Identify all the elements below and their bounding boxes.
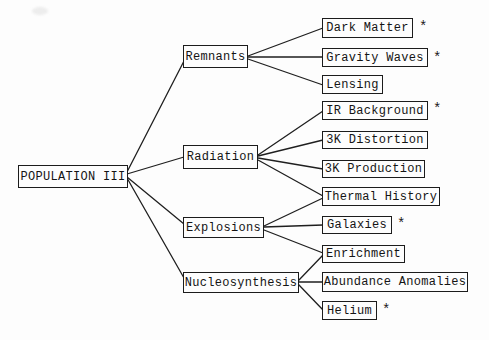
node-galaxies: Galaxies [322,216,392,234]
node-population-iii: POPULATION III [18,165,128,188]
population-iii-tree-diagram: POPULATION III Remnants Radiation Explos… [0,0,489,340]
edge-remnants-dark-matter [248,28,323,56]
node-abundance-anomalies: Abundance Anomalies [322,272,468,292]
node-explosions: Explosions [183,217,264,238]
node-gravity-waves: Gravity Waves [322,48,428,67]
node-remnants: Remnants [183,45,248,68]
edge-explosions-galaxies [264,225,323,227]
star-galaxies: * [397,216,405,232]
edge-root-nucleosynthesis [127,178,184,278]
edge-root-radiation [127,157,184,174]
star-ir-background: * [433,101,441,117]
edge-radiation-3k-production [258,158,323,169]
node-dark-matter: Dark Matter [322,18,413,38]
node-3k-production: 3K Production [322,160,425,178]
node-enrichment: Enrichment [322,245,405,263]
edge-radiation-thermal-history [258,160,323,196]
edge-remnants-lensing [248,59,323,85]
edge-root-remnants [127,61,184,172]
node-thermal-history: Thermal History [322,187,440,206]
star-dark-matter: * [419,19,427,35]
node-radiation: Radiation [183,145,258,169]
node-helium: Helium [322,301,377,320]
star-helium: * [382,302,390,318]
edge-root-explosions [127,177,184,224]
edge-nucleosynthesis-enrichment [299,255,323,280]
edge-explosions-enrichment [264,230,323,253]
node-lensing: Lensing [322,75,383,94]
edge-explosions-thermal-history [264,198,323,226]
star-gravity-waves: * [433,50,441,66]
node-ir-background: IR Background [322,101,428,120]
node-3k-distortion: 3K Distortion [322,131,428,149]
edge-nucleosynthesis-helium [299,285,323,310]
node-nucleosynthesis: Nucleosynthesis [183,272,299,293]
